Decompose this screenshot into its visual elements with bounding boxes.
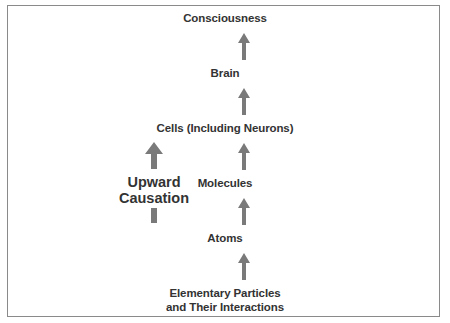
upward-causation-label-line1: Upward [110, 174, 198, 191]
arrow-up-icon [238, 253, 250, 280]
level-consciousness: Consciousness [0, 11, 450, 25]
upward-causation-base-bar [151, 208, 157, 223]
upward-causation-label-line2: Causation [110, 190, 198, 207]
arrow-up-icon [238, 143, 250, 170]
arrow-up-icon [238, 198, 250, 225]
upward-causation-arrow-icon [145, 142, 163, 169]
level-cells: Cells (Including Neurons) [0, 121, 450, 135]
level-elementary-particles-line1: Elementary Particles [0, 286, 450, 300]
level-elementary-particles-line2: and Their Interactions [0, 300, 450, 314]
arrow-up-icon [238, 33, 250, 60]
diagram-frame [7, 5, 440, 317]
level-brain: Brain [0, 66, 450, 80]
level-molecules: Molecules [0, 176, 450, 190]
level-atoms: Atoms [0, 231, 450, 245]
arrow-up-icon [238, 88, 250, 115]
